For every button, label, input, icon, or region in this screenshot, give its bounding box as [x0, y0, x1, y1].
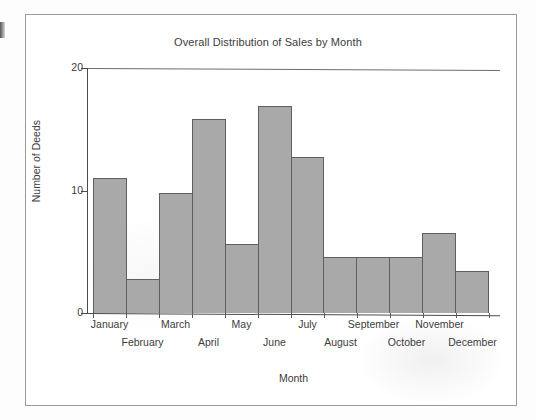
x-axis-category-labels: JanuaryFebruaryMarchAprilMayJuneJulyAugu…: [93, 318, 489, 358]
y-axis-title: Number of Deeds: [30, 120, 42, 202]
bar-december: [455, 271, 489, 313]
x-label-february: February: [121, 336, 163, 348]
bar-november: [422, 233, 456, 313]
bar-march: [159, 193, 193, 313]
y-tick-label: 20: [71, 61, 83, 73]
plot-area: 01020: [87, 68, 500, 313]
bar-april: [192, 119, 226, 313]
x-label-april: April: [198, 336, 219, 348]
y-tick-label: 10: [71, 184, 83, 196]
x-label-november: November: [415, 318, 463, 330]
x-label-january: January: [91, 318, 128, 330]
bar-chart: Overall Distribution of Sales by Month N…: [0, 0, 536, 420]
x-axis-title: Month: [87, 372, 500, 384]
bar-october: [389, 257, 423, 313]
page-canvas: Overall Distribution of Sales by Month N…: [0, 0, 536, 420]
x-label-july: July: [298, 318, 317, 330]
bar-series: [93, 68, 489, 313]
bar-september: [356, 257, 390, 313]
bar-january: [93, 178, 127, 313]
x-label-september: September: [348, 318, 399, 330]
x-label-may: May: [232, 318, 252, 330]
x-label-march: March: [161, 318, 190, 330]
x-label-october: October: [388, 336, 425, 348]
x-tick-mark: [489, 313, 490, 318]
y-axis-line: [87, 68, 88, 314]
x-label-june: June: [263, 336, 286, 348]
bar-june: [258, 106, 292, 313]
y-tick-label: 0: [77, 306, 83, 318]
chart-title: Overall Distribution of Sales by Month: [0, 36, 536, 48]
bar-august: [323, 257, 357, 313]
bar-may: [225, 244, 259, 313]
bar-february: [126, 279, 160, 313]
x-label-august: August: [324, 336, 357, 348]
bar-july: [291, 157, 325, 313]
x-label-december: December: [448, 336, 496, 348]
